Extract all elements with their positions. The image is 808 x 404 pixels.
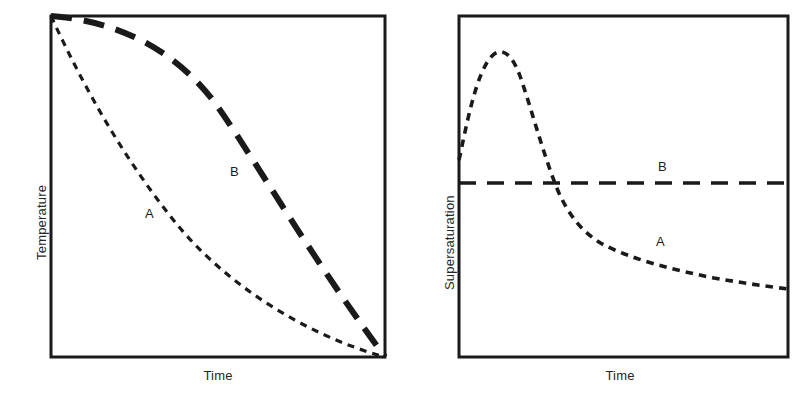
supersaturation-panel: B A Supersaturation Time xyxy=(404,0,808,404)
figure: A B Temperature Time B A Supersaturation… xyxy=(0,0,808,404)
x-axis-label: Time xyxy=(168,368,268,383)
temperature-plot-svg xyxy=(0,0,404,404)
curve-label-b: B xyxy=(658,159,667,174)
curve-label-a: A xyxy=(656,234,665,249)
y-axis-label: Temperature xyxy=(34,185,49,260)
curve-a-path xyxy=(51,16,385,357)
plot-frame xyxy=(51,16,385,357)
curve-b-path xyxy=(51,16,385,357)
curve-label-a: A xyxy=(145,206,154,221)
temperature-panel: A B Temperature Time xyxy=(0,0,404,404)
x-axis-label: Time xyxy=(570,368,670,383)
y-axis-label: Supersaturation xyxy=(442,195,457,290)
supersaturation-plot-svg xyxy=(404,0,808,404)
curve-a-path xyxy=(459,52,788,289)
plot-frame xyxy=(459,16,788,357)
curve-label-b: B xyxy=(230,164,239,179)
